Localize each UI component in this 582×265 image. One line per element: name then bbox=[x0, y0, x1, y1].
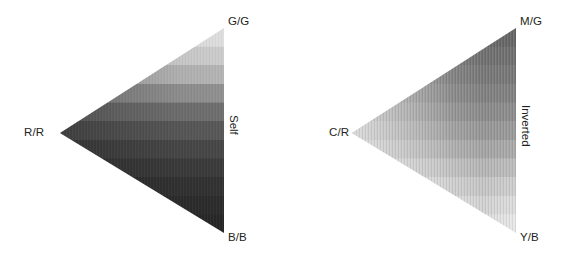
panel-self: G/G R/R B/B Self bbox=[0, 0, 291, 265]
axis-label-inverted: Inverted bbox=[520, 105, 532, 147]
vertex-label-left-inverted: C/R bbox=[329, 127, 349, 139]
vertex-label-top-self: G/G bbox=[228, 16, 249, 28]
inverted-gradient-body bbox=[347, 24, 522, 238]
vertex-label-left-self: R/R bbox=[24, 127, 44, 139]
self-gradient-body bbox=[55, 24, 230, 238]
triangle-figure: G/G R/R B/B Self bbox=[0, 0, 582, 265]
axis-label-self: Self bbox=[228, 115, 240, 135]
vertex-label-bottom-self: B/B bbox=[228, 232, 247, 244]
panel-inverted: M/G C/R Y/B Inverted bbox=[291, 0, 582, 265]
vertex-label-top-inverted: M/G bbox=[520, 16, 542, 28]
vertex-label-bottom-inverted: Y/B bbox=[520, 232, 539, 244]
